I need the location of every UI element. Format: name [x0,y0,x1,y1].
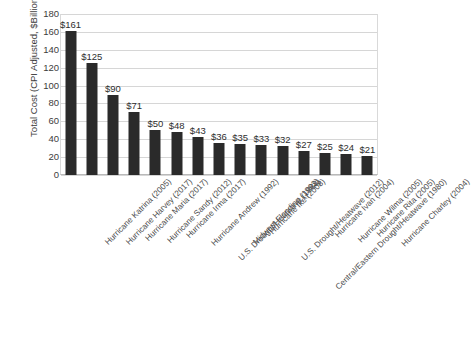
bar-group: $27 [293,14,314,175]
bar-group: $71 [124,14,145,175]
bar [319,153,330,175]
bar-group: $90 [102,14,123,175]
x-axis-category-labels: Hurricane Katrina (2005)Hurricane Harvey… [60,177,390,327]
bar-group: $125 [81,14,102,175]
y-axis-tick-label: 120 [33,62,59,73]
bar-value-label: $90 [105,83,121,94]
bar-group: $43 [187,14,208,175]
bar [65,31,76,175]
bar [277,146,288,175]
bar-value-label: $24 [338,142,354,153]
bar-group: $24 [336,14,357,175]
bar-value-label: $21 [359,144,375,155]
y-axis-tick-label: 180 [33,8,59,19]
y-axis-tick-label: 100 [33,80,59,91]
bar-value-label: $25 [317,141,333,152]
bar [213,143,224,175]
bar-value-label: $27 [296,139,312,150]
bar [129,112,140,176]
bar-group: $36 [208,14,229,175]
y-axis-tick-label: 140 [33,44,59,55]
x-axis-category-label: Central/Eastern Drought/Heatwave (1980) [333,177,447,291]
y-axis-tick-label: 60 [33,115,59,126]
bar [298,151,309,175]
y-axis-tick-label: 0 [33,169,59,180]
bar-group: $33 [251,14,272,175]
y-axis-tick-label: 160 [33,26,59,37]
bar [362,156,373,175]
bar-value-label: $33 [253,133,269,144]
gridline [61,175,377,176]
bar-group: $21 [357,14,378,175]
bar [107,95,118,176]
bar [171,132,182,175]
cropped-caption-text [4,332,244,337]
bar [150,130,161,175]
y-axis-tick-label: 40 [33,133,59,144]
bar-value-label: $161 [60,19,81,30]
bar [256,145,267,175]
bar-value-label: $36 [211,131,227,142]
bar-value-label: $43 [190,125,206,136]
bar-group: $48 [166,14,187,175]
bar-value-label: $125 [81,51,102,62]
bar [86,63,97,175]
bar-group: $32 [272,14,293,175]
y-axis-tick-label: 80 [33,97,59,108]
y-axis-tick-label: 20 [33,151,59,162]
bar-value-label: $50 [147,118,163,129]
bar-value-label: $48 [169,120,185,131]
bar-group: $25 [314,14,335,175]
bar-group: $50 [145,14,166,175]
bar [235,144,246,175]
bar-value-label: $35 [232,132,248,143]
bar-group: $35 [230,14,251,175]
bar-value-label: $71 [126,100,142,111]
bar-value-label: $32 [275,134,291,145]
bars-series: $161$125$90$71$50$48$43$36$35$33$32$27$2… [60,14,378,175]
bar-group: $161 [60,14,81,175]
bar [341,154,352,175]
bar [192,137,203,175]
